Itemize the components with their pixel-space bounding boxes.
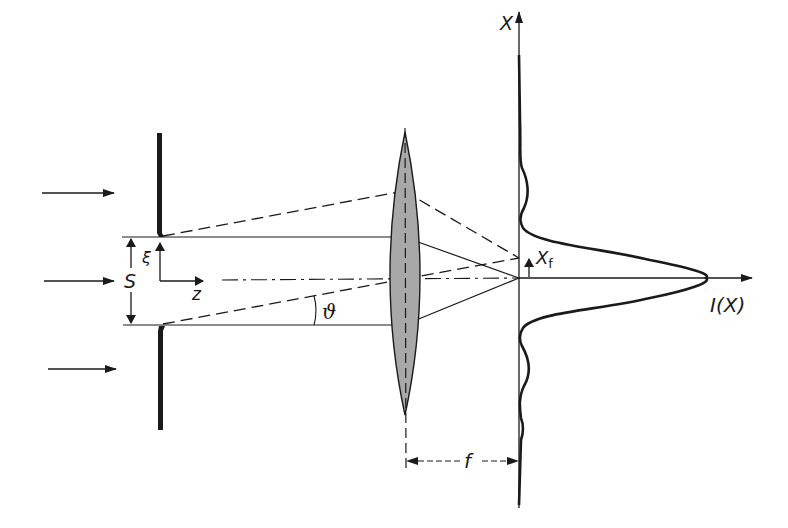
focus-offset-label: Xf [535,247,553,271]
slit-plate-upper [157,133,164,237]
focal-length-label: f [464,449,474,473]
incident-light-arrows [42,193,116,369]
z-axis-label: z [191,284,202,304]
angle-marker [314,296,316,325]
slit-coordinate-axes [160,243,203,281]
slit-width-label: S [124,270,136,292]
xi-label: ξ [141,248,152,267]
intensity-label: I(X) [710,293,745,317]
oblique-rays [163,191,519,324]
x-axis-label: X [499,12,514,34]
intensity-profile [519,55,707,505]
diffraction-diagram: S ξ z ϑ X I(X) Xf f [0,0,788,528]
converging-lens [390,128,420,470]
theta-label: ϑ [322,300,336,324]
optical-axis [222,278,519,280]
slit-plate-lower [158,326,165,430]
